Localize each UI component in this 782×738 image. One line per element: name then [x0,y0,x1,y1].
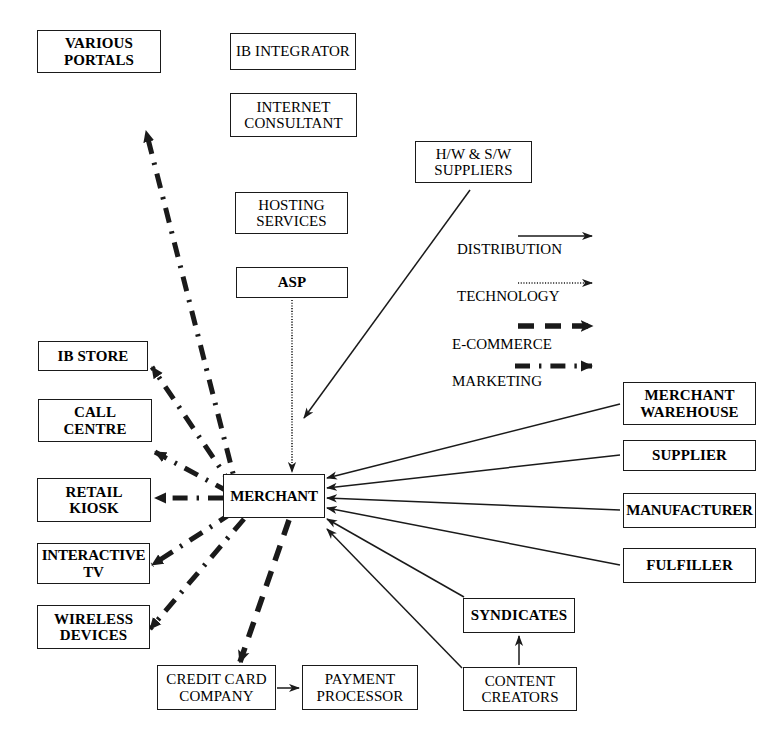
edge-merchant-to-various-portals [146,131,239,497]
edge-merchant-to-call-centre [155,452,229,492]
legend-label-technology: TECHNOLOGY [457,288,560,305]
node-credit-card-company[interactable]: CREDIT CARD COMPANY [157,665,276,710]
node-call-centre[interactable]: CALL CENTRE [38,399,152,442]
edge-merchant-warehouse-to-merchant [327,404,620,478]
edge-manufacturer-to-merchant [327,498,620,510]
node-ib-integrator[interactable]: IB INTEGRATOR [230,33,356,70]
node-various-portals[interactable]: VARIOUS PORTALS [37,30,161,73]
edge-content-creators-to-merchant [327,529,462,668]
node-hosting-services[interactable]: HOSTING SERVICES [235,192,348,234]
node-hw-sw-suppliers[interactable]: H/W & S/W SUPPLIERS [415,141,532,183]
node-content-creators[interactable]: CONTENT CREATORS [463,667,577,711]
legend-label-e-commerce: E-COMMERCE [452,336,552,353]
node-syndicates[interactable]: SYNDICATES [463,598,575,633]
node-fulfiller[interactable]: FULFILLER [623,548,756,583]
node-asp[interactable]: ASP [236,267,348,298]
node-merchant-warehouse[interactable]: MERCHANT WAREHOUSE [623,382,756,425]
node-merchant[interactable]: MERCHANT [223,474,325,518]
edge-fulfiller-to-merchant [327,508,620,565]
legend-label-distribution: DISTRIBUTION [457,241,562,258]
edge-merchant-to-credit-card [240,520,289,662]
node-internet-consultant[interactable]: INTERNET CONSULTANT [230,93,357,137]
legend-label-marketing: MARKETING [452,373,542,390]
edge-merchant-to-interactive-tv [152,513,232,565]
node-manufacturer[interactable]: MANUFACTURER [623,493,756,528]
node-supplier[interactable]: SUPPLIER [623,440,756,471]
node-payment-processor[interactable]: PAYMENT PROCESSOR [302,665,418,710]
node-retail-kiosk[interactable]: RETAIL KIOSK [37,478,151,522]
edge-supplier-to-merchant [327,455,620,488]
node-interactive-tv[interactable]: INTERACTIVE TV [37,543,150,584]
node-wireless-devices[interactable]: WIRELESS DEVICES [37,605,150,649]
diagram-canvas: VARIOUS PORTALSIB INTEGRATORINTERNET CON… [0,0,782,738]
node-ib-store[interactable]: IB STORE [38,341,148,371]
